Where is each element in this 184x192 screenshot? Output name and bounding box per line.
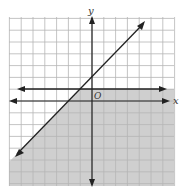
y-axis-label: y: [87, 5, 94, 16]
origin-label: O: [94, 91, 102, 101]
coordinate-plane: y x O: [0, 0, 184, 192]
x-axis-arrow-left: [9, 98, 17, 104]
x-axis-label: x: [173, 95, 179, 106]
y-axis-arrow-up: [89, 16, 95, 24]
